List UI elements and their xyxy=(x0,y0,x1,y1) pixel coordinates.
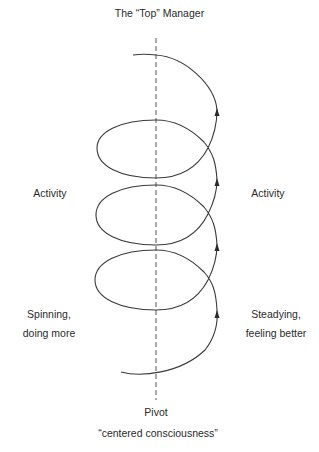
left-bottom-label-line1: Spinning, xyxy=(14,305,84,323)
left-bottom-label-line2: doing more xyxy=(14,324,84,342)
pivot-caption: “centered consciousness” xyxy=(0,424,316,442)
right-activity-label: Activity xyxy=(240,184,296,202)
pivot-label: Pivot xyxy=(0,403,312,421)
arrow-heads xyxy=(215,108,220,318)
arrow-up-icon xyxy=(215,310,220,318)
arrow-up-icon xyxy=(215,243,220,251)
arrow-up-icon xyxy=(215,178,220,186)
right-bottom-label-line1: Steadying, xyxy=(236,305,316,323)
left-activity-label: Activity xyxy=(22,184,78,202)
spiral-diagram xyxy=(0,0,319,452)
right-bottom-label-line2: feeling better xyxy=(236,324,316,342)
arrow-up-icon xyxy=(215,108,220,116)
